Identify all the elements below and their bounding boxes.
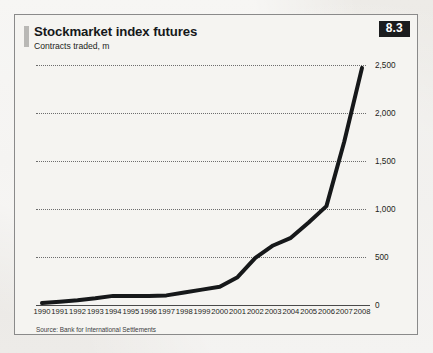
x-axis-tick-label: 2001 bbox=[229, 307, 246, 316]
source-note: Source: Bank for International Settlemen… bbox=[36, 326, 156, 333]
plot-area: 05001,0001,5002,0002,500 bbox=[36, 59, 387, 305]
x-axis-tick-label: 2008 bbox=[354, 307, 371, 316]
x-axis-ticks: 1990199119921993199419951996199719981999… bbox=[36, 307, 387, 319]
x-axis-tick-label: 1996 bbox=[140, 307, 157, 316]
x-axis-tick-label: 2004 bbox=[282, 307, 299, 316]
x-axis-tick-label: 1991 bbox=[51, 307, 68, 316]
x-axis-tick-label: 1999 bbox=[194, 307, 211, 316]
x-axis-tick-label: 1995 bbox=[122, 307, 139, 316]
x-axis-tick-label: 1990 bbox=[34, 307, 51, 316]
title-accent-bar bbox=[24, 26, 29, 47]
x-axis-tick-label: 1998 bbox=[176, 307, 193, 316]
x-axis-tick-label: 1992 bbox=[69, 307, 86, 316]
x-axis-tick-label: 2002 bbox=[247, 307, 264, 316]
x-axis-line bbox=[36, 305, 370, 306]
x-axis-tick-label: 2007 bbox=[336, 307, 353, 316]
chart-subtitle: Contracts traded, m bbox=[34, 41, 109, 51]
chart-figure: Stockmarket index futures Contracts trad… bbox=[14, 14, 418, 335]
x-axis-tick-label: 2006 bbox=[318, 307, 335, 316]
figure-number-badge: 8.3 bbox=[379, 21, 410, 37]
x-axis-tick-label: 1997 bbox=[158, 307, 175, 316]
series-line bbox=[36, 59, 387, 305]
x-axis-tick-label: 2003 bbox=[265, 307, 282, 316]
x-axis-tick-label: 1993 bbox=[87, 307, 104, 316]
x-axis-tick-label: 1994 bbox=[105, 307, 122, 316]
x-axis-tick-label: 2000 bbox=[211, 307, 228, 316]
page-title: Stockmarket index futures bbox=[34, 24, 197, 39]
x-axis-tick-label: 2005 bbox=[300, 307, 317, 316]
